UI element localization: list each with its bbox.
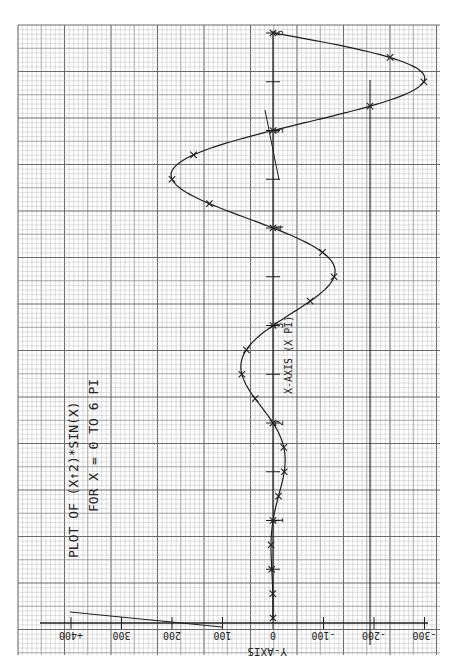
data-point-marker	[307, 298, 313, 304]
y-tick-label: -200	[362, 630, 386, 641]
x-tick-label: 1	[274, 517, 285, 523]
y-tick-label: 100	[213, 630, 231, 641]
axes	[40, 31, 428, 645]
data-point-marker	[243, 347, 249, 353]
x-tick-label: 6	[274, 30, 285, 36]
graph-paper-grid	[18, 25, 440, 655]
x-tick-label: 5	[274, 127, 285, 133]
data-point-marker	[421, 79, 427, 85]
data-point-marker	[190, 152, 196, 158]
x-tick-label: 2	[274, 420, 285, 426]
y-tick-label: 300	[112, 630, 130, 641]
data-point-marker	[206, 200, 212, 206]
y-tick-label: 0	[270, 630, 276, 641]
title-line-2: FOR X = 0 TO 6 PI	[86, 379, 101, 512]
y-tick-label: 200	[163, 630, 181, 641]
x-tick-label: 4	[274, 225, 285, 231]
title-line-1: PLOT OF (X↑2)*SIN(X)	[66, 401, 81, 558]
plot-canvas: 123456+4003002001000-100-200-300 PLOT OF…	[0, 0, 464, 667]
y-axis-label: Y-AXIS	[247, 645, 287, 658]
y-tick-label: -300	[412, 630, 436, 641]
chart-title: PLOT OF (X↑2)*SIN(X) FOR X = 0 TO 6 PI	[66, 379, 101, 558]
y-tick-label: -100	[311, 630, 335, 641]
y-tick-label: +400	[59, 630, 83, 641]
x-axis-label: X-AXIS (X PI)	[283, 316, 294, 394]
data-point-marker	[169, 176, 175, 182]
